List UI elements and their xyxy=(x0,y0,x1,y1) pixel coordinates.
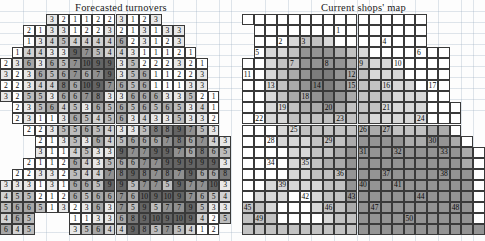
shop-marker[interactable]: 46 xyxy=(323,202,335,213)
shop-marker[interactable]: 50 xyxy=(404,213,416,224)
turnover-cell: 8 xyxy=(139,224,151,235)
turnover-cell: 6 xyxy=(162,102,174,113)
shop-marker[interactable]: 35 xyxy=(300,158,312,169)
turnover-cell: 9 xyxy=(69,47,81,58)
shop-marker[interactable]: 37 xyxy=(381,169,393,180)
turnover-cell: 5 xyxy=(58,125,70,136)
turnover-cell: 5 xyxy=(81,147,93,158)
turnover-cell: 6 xyxy=(12,202,24,213)
shop-marker[interactable]: 44 xyxy=(415,191,427,202)
turnover-cell: 6 xyxy=(92,224,104,235)
shop-marker[interactable]: 39 xyxy=(277,180,289,191)
shop-map-cell xyxy=(346,102,358,113)
shop-marker[interactable]: 22 xyxy=(254,113,266,124)
turnover-cell-value: 6 xyxy=(73,115,77,123)
shop-marker[interactable]: 4 xyxy=(381,36,393,47)
shop-marker[interactable]: 13 xyxy=(265,80,277,91)
turnover-cell-value: 5 xyxy=(27,93,31,101)
shop-marker[interactable]: 7 xyxy=(288,58,300,69)
turnover-cell-value: 10 xyxy=(141,193,149,201)
shop-marker[interactable]: 20 xyxy=(323,102,335,113)
shop-marker[interactable]: 18 xyxy=(300,91,312,102)
shop-marker[interactable]: 9 xyxy=(358,58,370,69)
shop-map-cell xyxy=(392,25,404,36)
shop-marker[interactable]: 31 xyxy=(358,147,370,158)
shop-marker-label: 30 xyxy=(429,138,437,146)
shop-marker[interactable]: 8 xyxy=(323,58,335,69)
shop-marker[interactable]: 49 xyxy=(254,213,266,224)
shop-map-cell xyxy=(358,113,370,124)
shop-marker[interactable]: 10 xyxy=(392,58,404,69)
shop-marker[interactable]: 34 xyxy=(265,158,277,169)
shop-marker[interactable]: 40 xyxy=(358,180,370,191)
turnover-cell: 6 xyxy=(127,136,139,147)
shop-marker[interactable]: 28 xyxy=(265,136,277,147)
turnover-cell-value: 9 xyxy=(177,182,181,190)
turnover-cell: 3 xyxy=(104,213,116,224)
shop-marker[interactable]: 45 xyxy=(242,202,254,213)
shop-marker[interactable]: 26 xyxy=(358,125,370,136)
shop-marker[interactable]: 48 xyxy=(450,202,462,213)
shop-marker[interactable]: 17 xyxy=(427,80,439,91)
turnover-cell-value: 1 xyxy=(62,149,66,157)
shop-marker[interactable]: 42 xyxy=(300,191,312,202)
shop-marker[interactable]: 3 xyxy=(300,36,312,47)
shop-marker[interactable]: 27 xyxy=(381,125,393,136)
turnover-cell-value: 1 xyxy=(73,16,77,24)
shop-marker[interactable]: 38 xyxy=(438,169,450,180)
turnover-cell: 7 xyxy=(150,180,162,191)
shop-marker[interactable]: 6 xyxy=(415,47,427,58)
shop-marker[interactable]: 25 xyxy=(288,125,300,136)
shop-marker[interactable]: 47 xyxy=(369,202,381,213)
shop-marker[interactable]: 1 xyxy=(334,25,346,36)
shop-marker[interactable]: 30 xyxy=(427,136,439,147)
turnover-cell-value: 6 xyxy=(50,104,54,112)
shop-map-cell xyxy=(242,58,254,69)
turnover-cell-value: 5 xyxy=(223,215,227,223)
turnover-cell-value: 2 xyxy=(27,127,31,135)
shop-map-cell xyxy=(427,180,439,191)
turnover-cell: 3 xyxy=(23,180,35,191)
shop-map-cell xyxy=(427,158,439,169)
shop-marker[interactable]: 16 xyxy=(381,80,393,91)
turnover-cell: 10 xyxy=(81,58,93,69)
shop-marker[interactable]: 15 xyxy=(346,80,358,91)
turnover-cell: 2 xyxy=(12,169,24,180)
shop-map-cell xyxy=(323,158,335,169)
turnover-cell-value: 5 xyxy=(131,182,135,190)
shop-marker[interactable]: 24 xyxy=(415,113,427,124)
turnover-cell-value: 6 xyxy=(96,193,100,201)
shop-marker[interactable]: 23 xyxy=(334,113,346,124)
shop-marker[interactable]: 33 xyxy=(438,147,450,158)
turnover-cell-value: 3 xyxy=(27,71,31,79)
shop-marker[interactable]: 43 xyxy=(346,191,358,202)
turnover-cell-value: 5 xyxy=(142,127,146,135)
turnover-cell: 5 xyxy=(35,91,47,102)
turnover-cell-value: 6 xyxy=(85,71,89,79)
turnover-cell-value: 9 xyxy=(189,204,193,212)
shop-marker[interactable]: 12 xyxy=(346,69,358,80)
shop-map-cell xyxy=(427,58,439,69)
shop-marker[interactable]: 32 xyxy=(392,147,404,158)
shop-marker[interactable]: 19 xyxy=(277,102,289,113)
shop-marker[interactable]: 29 xyxy=(323,136,335,147)
turnover-cell-value: 2 xyxy=(189,60,193,68)
shop-marker[interactable]: 21 xyxy=(381,102,393,113)
turnover-cell-value: 7 xyxy=(200,138,204,146)
shop-marker[interactable]: 14 xyxy=(311,80,323,91)
shop-map-cell xyxy=(392,91,404,102)
turnover-cell-value: 5 xyxy=(39,204,43,212)
shop-marker[interactable]: 36 xyxy=(334,169,346,180)
shop-marker[interactable]: 5 xyxy=(254,47,266,58)
shop-map-cell xyxy=(265,69,277,80)
shop-marker[interactable]: 2 xyxy=(277,36,289,47)
turnover-cell: 1 xyxy=(81,213,93,224)
turnover-cell-value: 3 xyxy=(119,60,123,68)
turnover-cell: 2 xyxy=(127,36,139,47)
shop-marker[interactable]: 11 xyxy=(242,69,254,80)
shop-marker[interactable]: 41 xyxy=(392,180,404,191)
shop-map-cell xyxy=(334,224,346,235)
turnover-cell: 2 xyxy=(185,69,197,80)
turnover-cell: 5 xyxy=(104,158,116,169)
shop-map-cell xyxy=(415,136,427,147)
